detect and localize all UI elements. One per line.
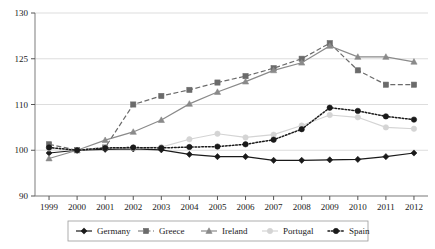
legend-marker-circle (267, 228, 272, 233)
y-tick-label: 130 (15, 8, 29, 18)
legend-marker-square (143, 228, 148, 233)
data-point (327, 112, 332, 117)
x-tick-label: 2006 (237, 202, 256, 212)
x-tick-label: 2004 (180, 202, 199, 212)
chart-canvas: 13012511010090 1999200020012002200320042… (0, 0, 435, 249)
gridlines-group (35, 13, 428, 196)
x-tick-label: 2011 (377, 202, 395, 212)
x-tick-label: 2008 (293, 202, 312, 212)
data-point (383, 125, 388, 130)
data-point (187, 144, 192, 149)
series-line (49, 108, 414, 151)
legend-label: Ireland (222, 226, 248, 236)
series-portugal (46, 112, 416, 153)
data-point (411, 82, 416, 87)
legend-label: Spain (349, 226, 370, 236)
y-tick-label: 90 (19, 191, 29, 201)
data-point (327, 157, 333, 163)
data-point (383, 154, 389, 160)
x-tick-label: 2009 (321, 202, 340, 212)
y-tick-label: 100 (15, 145, 29, 155)
legend-marker-circle (333, 228, 338, 233)
y-tick-labels-group: 13012511010090 (15, 8, 29, 201)
y-tick-label: 125 (15, 54, 29, 64)
data-point (243, 154, 249, 160)
x-tick-label: 2000 (68, 202, 87, 212)
data-point (355, 115, 360, 120)
data-point (271, 132, 276, 137)
data-point (411, 150, 417, 156)
data-point (215, 80, 220, 85)
series-ireland (46, 43, 417, 161)
x-tick-label: 2005 (208, 202, 227, 212)
data-point (187, 87, 192, 92)
chart-legend: GermanyGreeceIrelandPortugalSpain (68, 221, 370, 241)
line-chart: 13012511010090 1999200020012002200320042… (0, 0, 435, 249)
x-tick-label: 2003 (152, 202, 171, 212)
data-point (355, 68, 360, 73)
data-point (46, 145, 51, 150)
data-point (131, 145, 136, 150)
data-point (355, 156, 361, 162)
x-tick-label: 1999 (40, 202, 59, 212)
x-tick-label: 2012 (405, 202, 423, 212)
data-point (299, 127, 304, 132)
data-point (74, 148, 79, 153)
data-point (186, 151, 192, 157)
data-point (215, 131, 220, 136)
data-point (299, 157, 305, 163)
data-point (158, 117, 164, 123)
legend-label: Greece (159, 226, 184, 236)
legend-label: Germany (97, 226, 131, 236)
data-point (383, 114, 388, 119)
x-tick-label: 2007 (265, 202, 284, 212)
y-tick-label: 110 (15, 100, 29, 110)
data-point (102, 145, 107, 150)
data-point (271, 137, 276, 142)
data-point (214, 154, 220, 160)
data-point (411, 117, 416, 122)
data-point (383, 82, 388, 87)
data-point (271, 157, 277, 163)
x-tick-label: 2010 (349, 202, 368, 212)
data-point (355, 108, 360, 113)
data-point (215, 144, 220, 149)
x-tick-label: 2002 (124, 202, 142, 212)
legend-label: Portugal (283, 226, 314, 236)
data-point (411, 126, 416, 131)
x-tick-labels-group: 1999200020012002200320042005200620072008… (40, 202, 423, 212)
axes-group (31, 13, 428, 200)
data-point (243, 142, 248, 147)
data-point (187, 137, 192, 142)
data-point (159, 93, 164, 98)
data-point (131, 102, 136, 107)
data-point (243, 135, 248, 140)
series-spain (46, 105, 416, 153)
x-tick-label: 2001 (96, 202, 114, 212)
data-point (159, 145, 164, 150)
data-point (327, 105, 332, 110)
